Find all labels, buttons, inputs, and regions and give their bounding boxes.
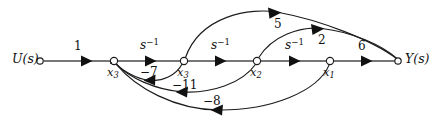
gain-label-x1-to-x3dot: −8 bbox=[203, 95, 221, 107]
gain-exponent-x3-to-x2: −1 bbox=[217, 37, 230, 47]
gain-label-x1-to-y: 6 bbox=[358, 40, 366, 52]
node-label-x1: x1 bbox=[323, 67, 335, 80]
node-y[interactable] bbox=[395, 58, 401, 64]
node-x1[interactable] bbox=[326, 57, 333, 64]
node-x3-dot[interactable] bbox=[110, 57, 117, 64]
gain-label-x3-to-x3dot: −7 bbox=[140, 66, 158, 78]
gain-exponent-x2-to-x1: −1 bbox=[291, 37, 304, 47]
node-x2[interactable] bbox=[253, 57, 260, 64]
node-label-x1-subscript: 1 bbox=[330, 70, 335, 80]
arrowhead-x3-to-x2 bbox=[215, 56, 227, 67]
node-label-x3-dot: x3 bbox=[107, 67, 119, 80]
arrowhead-x1-to-y bbox=[361, 56, 373, 67]
edge-x1-to-y bbox=[334, 56, 395, 67]
edge-x2-to-x1 bbox=[261, 56, 327, 67]
gain-label-x3dot-to-x3: s−1 bbox=[140, 38, 159, 51]
edge-x3-to-x2 bbox=[188, 56, 254, 67]
gain-label-x3-to-x2: s−1 bbox=[211, 38, 230, 51]
node-x3[interactable] bbox=[180, 57, 187, 64]
gain-label-u-to-x3dot: 1 bbox=[74, 40, 82, 52]
signal-flow-graph-canvas bbox=[0, 0, 442, 123]
gain-label-x2-to-y: 2 bbox=[318, 34, 326, 46]
node-label-u: U(s) bbox=[12, 53, 39, 66]
node-label-x2: x2 bbox=[250, 67, 262, 80]
node-label-x3-dot-subscript: 3 bbox=[114, 70, 119, 80]
arrowhead-u-to-x3dot bbox=[81, 56, 93, 67]
signal-flow-graph: U(s) x3 x3 x2 x1 Y(s) 1 s−1 s−1 s−1 6 5 … bbox=[0, 0, 442, 123]
node-label-x2-subscript: 2 bbox=[257, 70, 262, 80]
arrowhead-x2-to-x1 bbox=[289, 56, 301, 67]
x3-dot-accent: x bbox=[107, 65, 114, 79]
edge-u-to-x3dot bbox=[44, 56, 111, 67]
gain-exponent-x3dot-to-x3: −1 bbox=[146, 37, 159, 47]
node-label-y: Y(s) bbox=[405, 53, 429, 66]
gain-label-x2-to-x1: s−1 bbox=[285, 38, 304, 51]
gain-label-x3-to-y: 5 bbox=[274, 18, 282, 30]
gain-label-x2-to-x3dot: −11 bbox=[172, 79, 197, 91]
